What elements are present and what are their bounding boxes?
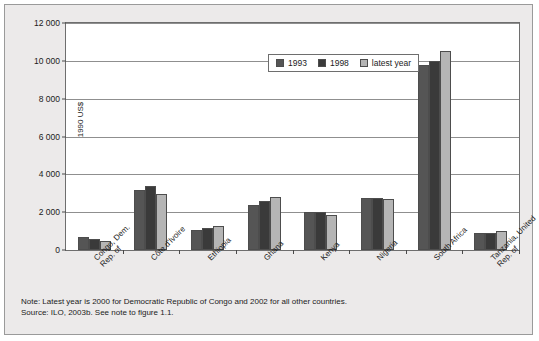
bar — [361, 198, 372, 250]
chart-legend: 1993 1998 latest year — [268, 54, 419, 72]
legend-label-latest-year: latest year — [372, 58, 411, 68]
x-tick-mark — [293, 250, 294, 254]
footnotes: Note: Latest year is 2000 for Democratic… — [21, 296, 521, 318]
footnote-note: Note: Latest year is 2000 for Democratic… — [21, 296, 521, 307]
bar — [429, 61, 440, 250]
x-tick-mark — [406, 250, 407, 254]
plot-area: 02 0004 0006 0008 00010 00012 000 Congo,… — [65, 22, 520, 251]
bar — [248, 205, 259, 250]
bar — [134, 190, 145, 250]
y-tick-label: 4 000 — [39, 169, 60, 179]
bar — [191, 230, 202, 250]
bar — [315, 212, 326, 250]
bar-group — [406, 51, 463, 250]
bar — [145, 186, 156, 250]
x-tick-mark — [349, 250, 350, 254]
y-tick-label: 6 000 — [39, 132, 60, 142]
bar — [78, 237, 89, 250]
x-tick-mark — [462, 250, 463, 254]
legend-swatch-1993 — [276, 59, 284, 67]
bar — [485, 233, 496, 250]
x-tick-mark — [236, 250, 237, 254]
y-tick-label: 2 000 — [39, 207, 60, 217]
legend-label-1993: 1993 — [288, 58, 307, 68]
bar-group — [236, 197, 293, 250]
y-tick-label: 10 000 — [34, 56, 60, 66]
legend-item: 1998 — [318, 58, 349, 68]
bar — [418, 65, 429, 250]
footnote-source: Source: ILO, 2003b. See note to figure 1… — [21, 307, 521, 318]
bar — [474, 233, 485, 250]
y-axis-title: 1990 US$ — [76, 80, 85, 160]
legend-swatch-1998 — [318, 59, 326, 67]
legend-label-1998: 1998 — [330, 58, 349, 68]
y-tick-label: 8 000 — [39, 94, 60, 104]
bar — [440, 51, 451, 250]
legend-item: latest year — [360, 58, 411, 68]
bar — [304, 212, 315, 250]
legend-swatch-latest-year — [360, 59, 368, 67]
bar — [372, 198, 383, 250]
legend-item: 1993 — [276, 58, 307, 68]
x-tick-mark — [179, 250, 180, 254]
figure-container: 02 0004 0006 0008 00010 00012 000 Congo,… — [4, 4, 533, 335]
y-tick-label: 12 000 — [34, 18, 60, 28]
bar — [259, 201, 270, 250]
bar — [202, 228, 213, 250]
y-tick-label: 0 — [55, 245, 60, 255]
